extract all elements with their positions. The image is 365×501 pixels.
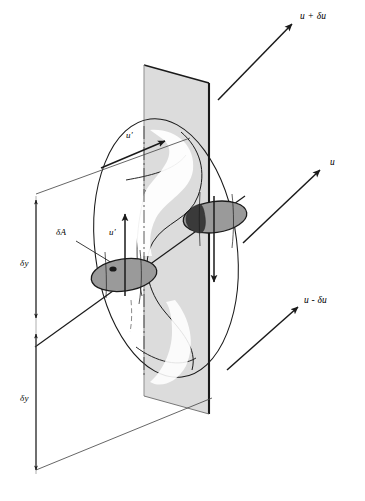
reference-line-lower [36, 398, 212, 470]
figure-root: u + δu u u - δu δy δy δA u′ u′ [0, 0, 365, 501]
label-delta-y-lower: δy [20, 394, 29, 403]
eddy-diagram-svg [0, 0, 365, 501]
left-element-marker-blob [109, 266, 116, 271]
label-delta-y-upper: δy [20, 259, 29, 268]
velocity-arrow-u [243, 170, 320, 243]
label-u-plus-du: u + δu [300, 12, 326, 22]
velocity-arrow-u-minus-du [227, 307, 298, 370]
label-u-prime-diagonal: u′ [126, 131, 133, 140]
label-u-prime-vertical: u′ [109, 228, 116, 237]
strand-left-tail [130, 300, 132, 332]
label-u-minus-du: u - δu [304, 296, 327, 306]
transverse-reference-lines [35, 138, 245, 470]
velocity-arrows [218, 24, 320, 370]
velocity-arrow-u-plus-du [218, 24, 292, 100]
label-u: u [330, 158, 335, 168]
label-delta-a: δA [56, 228, 66, 237]
